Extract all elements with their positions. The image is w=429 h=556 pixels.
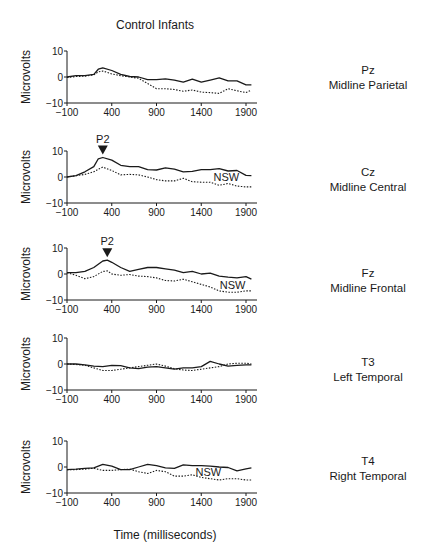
peak-arrow-icon	[102, 248, 112, 257]
solid-waveform	[67, 464, 251, 471]
y-tick-label: 0	[57, 269, 63, 280]
peak-label: P2	[101, 235, 114, 247]
y-tick-label: 10	[52, 436, 64, 447]
y-tick-label: 10	[52, 146, 64, 157]
x-tick-label: 900	[148, 304, 165, 315]
erp-plots: 100−10−10040090014001900Microvolts100−10…	[0, 0, 429, 556]
y-tick-label: 10	[52, 46, 64, 57]
x-tick-label: −100	[56, 394, 79, 405]
x-tick-label: 1900	[235, 207, 258, 218]
x-tick-label: 400	[103, 497, 120, 508]
dotted-waveform	[67, 468, 251, 480]
y-axis-title: Microvolts	[19, 150, 33, 204]
x-tick-label: −100	[56, 207, 79, 218]
x-tick-label: −100	[56, 497, 79, 508]
nsw-label: NSW	[220, 279, 246, 291]
peak-arrow-icon	[98, 146, 108, 155]
y-axis-title: Microvolts	[19, 247, 33, 301]
nsw-label: NSW	[213, 171, 239, 183]
x-tick-label: −100	[56, 304, 79, 315]
dotted-waveform	[67, 71, 251, 93]
solid-waveform	[67, 68, 251, 85]
x-tick-label: 1900	[235, 304, 258, 315]
x-tick-label: 1400	[190, 394, 213, 405]
x-tick-label: 400	[103, 394, 120, 405]
peak-label: P2	[96, 133, 109, 145]
x-tick-label: 1900	[235, 394, 258, 405]
y-tick-label: 0	[57, 72, 63, 83]
x-tick-label: 1900	[235, 497, 258, 508]
x-tick-label: 1400	[190, 304, 213, 315]
y-tick-label: 10	[52, 333, 64, 344]
y-axis-title: Microvolts	[19, 337, 33, 391]
x-tick-label: 900	[148, 394, 165, 405]
x-tick-label: 400	[103, 304, 120, 315]
x-tick-label: 900	[148, 497, 165, 508]
x-tick-label: 400	[103, 207, 120, 218]
x-tick-label: 900	[148, 207, 165, 218]
x-tick-label: −100	[56, 107, 79, 118]
y-tick-label: 0	[57, 359, 63, 370]
x-tick-label: 1900	[235, 107, 258, 118]
y-axis-title: Microvolts	[19, 440, 33, 494]
y-axis-title: Microvolts	[19, 50, 33, 104]
x-tick-label: 400	[103, 107, 120, 118]
x-tick-label: 1400	[190, 497, 213, 508]
x-tick-label: 900	[148, 107, 165, 118]
y-tick-label: 0	[57, 462, 63, 473]
solid-waveform	[67, 260, 251, 279]
x-tick-label: 1400	[190, 107, 213, 118]
y-tick-label: 0	[57, 172, 63, 183]
nsw-label: NSW	[196, 466, 222, 478]
x-tick-label: 1400	[190, 207, 213, 218]
y-tick-label: 10	[52, 243, 64, 254]
